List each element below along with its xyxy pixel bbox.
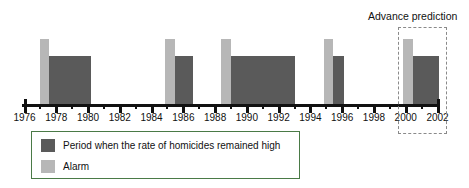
legend-label-alarm: Alarm [63, 161, 89, 172]
x-tick-label: 1978 [39, 112, 73, 123]
alarm-bar [324, 39, 334, 104]
x-tick-label: 1994 [293, 112, 327, 123]
x-tick-label: 1980 [71, 112, 105, 123]
period-bar [42, 56, 91, 104]
x-tick-minor [71, 104, 73, 109]
legend-item-alarm: Alarm [41, 160, 89, 173]
legend-swatch-alarm [41, 160, 55, 173]
advance-prediction-box [398, 27, 447, 134]
x-tick-minor [262, 104, 264, 109]
legend-label-period: Period when the rate of homicides remain… [63, 140, 280, 151]
x-tick-minor [230, 104, 232, 109]
x-tick-minor [198, 104, 200, 109]
x-tick-label: 1982 [103, 112, 137, 123]
x-tick-label: 1986 [166, 112, 200, 123]
x-axis-endcap [24, 99, 27, 107]
legend-swatch-period [41, 139, 55, 152]
x-tick-minor [357, 104, 359, 109]
x-tick-label: 1976 [8, 112, 42, 123]
x-tick-minor [135, 104, 137, 109]
x-tick-label: 1998 [357, 112, 391, 123]
x-tick-minor [294, 104, 296, 109]
x-tick-minor [325, 104, 327, 109]
alarm-bar [221, 39, 231, 104]
legend: Period when the rate of homicides remain… [31, 131, 300, 179]
advance-prediction-label: Advance prediction [368, 10, 457, 22]
period-bar [225, 56, 295, 104]
alarm-bar [165, 39, 175, 104]
x-tick-label: 1988 [198, 112, 232, 123]
x-tick-minor [389, 104, 391, 109]
x-tick-label: 1984 [135, 112, 169, 123]
alarm-bar [40, 39, 50, 104]
legend-item-period: Period when the rate of homicides remain… [41, 139, 280, 152]
x-tick-minor [103, 104, 105, 109]
x-tick-minor [166, 104, 168, 109]
x-tick-minor [39, 104, 41, 109]
chart-root: 1976197819801982198419861988199019921994… [0, 0, 469, 188]
x-tick-label: 1996 [325, 112, 359, 123]
x-tick-label: 1990 [230, 112, 264, 123]
x-tick-label: 1992 [262, 112, 296, 123]
